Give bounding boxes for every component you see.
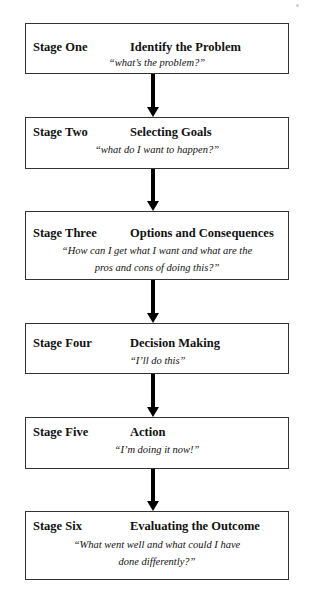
stage-number: Stage Six <box>33 519 82 534</box>
stage-quote: “I’ll do this” <box>130 353 288 369</box>
stage-title: Identify the Problem <box>130 40 241 55</box>
stage-box-three: Stage Three Options and Consequences “Ho… <box>25 211 289 280</box>
stage-title: Selecting Goals <box>130 125 212 140</box>
stage-title: Action <box>130 425 165 440</box>
stage-number: Stage One <box>33 40 88 55</box>
stage-title: Options and Consequences <box>130 226 274 241</box>
arrow-down-icon <box>148 469 158 511</box>
stage-box-four: Stage Four Decision Making “I’ll do this… <box>25 323 289 374</box>
stage-number: Stage Three <box>33 226 97 241</box>
scan-speck <box>296 4 299 7</box>
stage-title: Evaluating the Outcome <box>130 519 260 534</box>
stage-box-one: Stage One Identify the Problem “what’s t… <box>25 23 289 74</box>
arrow-down-icon <box>148 74 158 117</box>
stage-title: Decision Making <box>130 336 220 351</box>
stage-quote: “what do I want to happen?” <box>26 142 288 158</box>
stage-number: Stage Two <box>33 125 88 140</box>
stage-quote: “what’s the problem?” <box>26 55 288 71</box>
stage-box-five: Stage Five Action “I’m doing it now!” <box>25 417 289 469</box>
stage-quote-line-1: “How can I get what I want and what are … <box>26 243 288 259</box>
arrow-down-icon <box>148 169 158 211</box>
stage-number: Stage Five <box>33 425 88 440</box>
stage-quote: “I’m doing it now!” <box>26 442 288 458</box>
stage-quote-line-1: “What went well and what could I have <box>26 537 288 553</box>
stage-quote-line-2: done differently?” <box>26 554 288 570</box>
arrow-down-icon <box>148 280 158 323</box>
stage-number: Stage Four <box>33 336 92 351</box>
arrow-down-icon <box>148 374 158 417</box>
stage-box-two: Stage Two Selecting Goals “what do I wan… <box>25 117 289 169</box>
stage-box-six: Stage Six Evaluating the Outcome “What w… <box>25 511 289 580</box>
stage-quote-line-2: pros and cons of doing this?” <box>26 260 288 276</box>
